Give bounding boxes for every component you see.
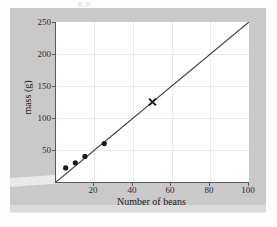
plot-area [55,22,249,183]
cut-off-caption-text: g p [78,0,122,7]
figure-root: g p 250 200 150 100 50 20 40 60 8 [0,0,277,227]
y-tick-label: 250 [27,18,51,27]
data-point [82,154,87,159]
data-point [102,141,107,146]
x-axis-label: Number of beans [55,196,248,207]
y-tick-label: 200 [27,50,51,59]
x-tick-label: 60 [155,186,185,195]
cross-marker [149,99,156,106]
data-point [73,160,78,165]
data-series-svg [56,22,249,182]
x-tick-label: 40 [117,186,147,195]
y-axis-label: mass (g) [22,63,33,133]
x-tick-label: 20 [78,186,108,195]
plot-inner [56,22,249,182]
y-tick-label: 50 [27,146,51,155]
x-tick-label: 80 [194,186,224,195]
data-point [63,165,68,170]
x-tick-label: 100 [233,186,263,195]
